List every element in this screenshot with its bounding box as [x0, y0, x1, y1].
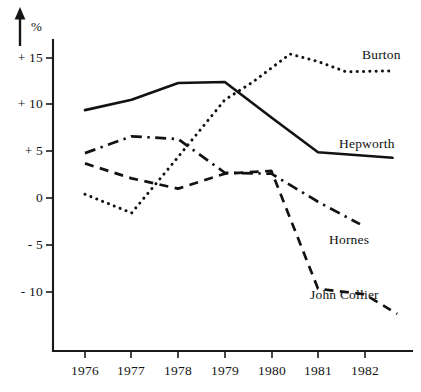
- y-axis-unit-label: %: [31, 19, 42, 35]
- series-label-hepworth: Hepworth: [339, 136, 395, 152]
- y-tick-label-5: + 5: [0, 143, 43, 159]
- y-tick-label-0: 0: [0, 190, 43, 206]
- series-group: [85, 54, 397, 314]
- chart-plot-area: [0, 0, 421, 392]
- x-tick-label-1982: 1982: [335, 363, 395, 379]
- y-tick-label-15: + 15: [0, 50, 43, 66]
- series-label-burton: Burton: [362, 47, 401, 63]
- series-label-hornes: Hornes: [329, 232, 369, 248]
- line-chart: % + 15 + 10 + 5 0 - 5 - 10 1976 1977 197…: [0, 0, 421, 392]
- y-axis-arrow-icon: [15, 7, 26, 46]
- y-tick-label-10: + 10: [0, 96, 43, 112]
- series-label-john-collier: John Collier: [310, 287, 379, 303]
- y-tick-label-neg10: - 10: [0, 284, 43, 300]
- series-line-burton: [85, 54, 393, 213]
- y-tick-label-neg5: - 5: [0, 237, 43, 253]
